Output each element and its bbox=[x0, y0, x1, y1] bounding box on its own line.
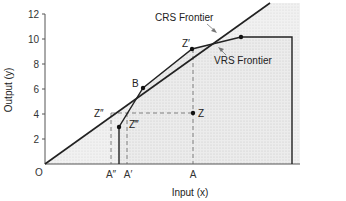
x-label-a-double-prime: A″ bbox=[106, 169, 117, 180]
label-z-triple-prime: Z‴ bbox=[129, 119, 139, 130]
point-vrs-start bbox=[117, 125, 121, 129]
point-z-prime bbox=[190, 47, 194, 51]
point-b bbox=[141, 86, 145, 90]
x-axis-title: Input (x) bbox=[172, 187, 209, 198]
y-tick-6: 6 bbox=[33, 84, 39, 95]
y-tick-8: 8 bbox=[33, 59, 39, 70]
vrs-frontier-label: VRS Frontier bbox=[214, 55, 272, 66]
origin-label: O bbox=[35, 167, 43, 178]
point-vrs-kink bbox=[239, 35, 243, 39]
crs-frontier-label: CRS Frontier bbox=[155, 12, 214, 23]
x-label-a: A bbox=[190, 169, 197, 180]
label-b: B bbox=[132, 78, 139, 89]
point-z bbox=[191, 111, 195, 115]
dea-frontier-chart: 12 10 8 6 4 2 O B Z′ Z Z″ Z‴ A″ A′ A CRS… bbox=[0, 0, 346, 201]
y-tick-4: 4 bbox=[33, 109, 39, 120]
label-z-double-prime: Z″ bbox=[94, 108, 104, 119]
label-z: Z bbox=[198, 108, 204, 119]
y-axis-title: Output (y) bbox=[3, 68, 14, 112]
x-label-a-prime: A′ bbox=[124, 169, 133, 180]
y-tick-10: 10 bbox=[28, 34, 40, 45]
y-tick-12: 12 bbox=[28, 9, 40, 20]
y-tick-2: 2 bbox=[33, 134, 39, 145]
label-z-prime: Z′ bbox=[182, 38, 190, 49]
